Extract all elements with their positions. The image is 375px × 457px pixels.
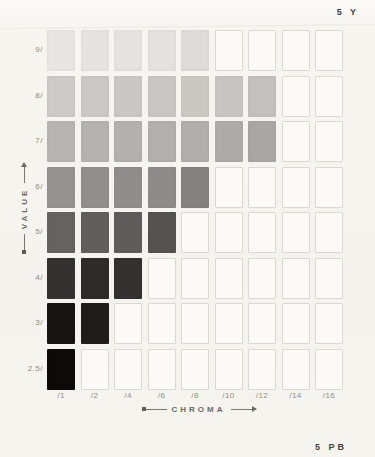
empty-cell bbox=[282, 76, 310, 117]
chroma-column-label: /6 bbox=[148, 391, 176, 403]
color-chip bbox=[114, 258, 142, 299]
chroma-axis-line bbox=[146, 409, 167, 410]
next-hue-label: 5 PB bbox=[315, 442, 347, 452]
empty-cell bbox=[282, 258, 310, 299]
empty-cell bbox=[248, 212, 276, 253]
chroma-column-label: /16 bbox=[315, 391, 343, 403]
color-chip bbox=[148, 76, 176, 117]
value-row-label: 7/ bbox=[0, 136, 43, 145]
empty-cell bbox=[248, 30, 276, 71]
value-axis-line bbox=[24, 234, 25, 250]
empty-cell bbox=[315, 167, 343, 208]
chroma-axis: CHROMA bbox=[151, 404, 247, 414]
value-axis-arrow-icon bbox=[21, 162, 27, 167]
empty-cell bbox=[81, 349, 109, 390]
chroma-column-labels: /1/2/4/6/8/10/12/14/16 bbox=[47, 391, 343, 403]
value-row-label: 8/ bbox=[0, 91, 43, 100]
empty-cell bbox=[315, 121, 343, 162]
empty-cell bbox=[148, 258, 176, 299]
empty-cell bbox=[248, 167, 276, 208]
empty-cell bbox=[315, 30, 343, 71]
value-axis-end-square bbox=[22, 250, 26, 254]
empty-cell bbox=[114, 349, 142, 390]
color-chip bbox=[114, 121, 142, 162]
color-chip bbox=[47, 212, 75, 253]
color-chip bbox=[148, 121, 176, 162]
empty-cell bbox=[248, 303, 276, 344]
empty-cell bbox=[148, 349, 176, 390]
color-chip bbox=[248, 121, 276, 162]
color-chip bbox=[47, 258, 75, 299]
empty-cell bbox=[215, 303, 243, 344]
color-chip bbox=[47, 76, 75, 117]
empty-cell bbox=[315, 349, 343, 390]
empty-cell bbox=[215, 349, 243, 390]
color-chip bbox=[181, 167, 209, 208]
chroma-column-label: /2 bbox=[81, 391, 109, 403]
empty-cell bbox=[248, 258, 276, 299]
color-chip bbox=[81, 258, 109, 299]
empty-cell bbox=[315, 212, 343, 253]
empty-cell bbox=[181, 258, 209, 299]
color-chip bbox=[47, 167, 75, 208]
color-chip bbox=[47, 121, 75, 162]
color-chip bbox=[181, 30, 209, 71]
color-chip bbox=[181, 121, 209, 162]
chroma-column-label: /12 bbox=[248, 391, 276, 403]
chroma-column-label: /8 bbox=[181, 391, 209, 403]
color-chip bbox=[215, 121, 243, 162]
color-chip bbox=[181, 76, 209, 117]
color-chip bbox=[114, 30, 142, 71]
color-chip bbox=[148, 30, 176, 71]
color-chip bbox=[47, 349, 75, 390]
chroma-axis-line bbox=[231, 409, 252, 410]
color-chip bbox=[81, 167, 109, 208]
chroma-axis-label: CHROMA bbox=[167, 405, 231, 414]
color-chip bbox=[248, 76, 276, 117]
value-row-label: 3/ bbox=[0, 318, 43, 327]
empty-cell bbox=[315, 303, 343, 344]
empty-cell bbox=[315, 76, 343, 117]
empty-cell bbox=[148, 303, 176, 344]
empty-cell bbox=[181, 212, 209, 253]
color-chip bbox=[81, 212, 109, 253]
value-axis-line bbox=[24, 167, 25, 183]
chroma-axis-arrow-icon bbox=[252, 406, 257, 412]
empty-cell bbox=[114, 303, 142, 344]
value-row-label: 5/ bbox=[0, 227, 43, 236]
empty-cell bbox=[215, 30, 243, 71]
chroma-column-label: /1 bbox=[47, 391, 75, 403]
color-chip bbox=[81, 303, 109, 344]
empty-cell bbox=[215, 258, 243, 299]
value-row-label: 9/ bbox=[0, 45, 43, 54]
chroma-column-label: /4 bbox=[114, 391, 142, 403]
value-row-label: 4/ bbox=[0, 273, 43, 282]
color-chip bbox=[81, 76, 109, 117]
value-axis: VALUE bbox=[19, 156, 29, 260]
empty-cell bbox=[282, 30, 310, 71]
empty-cell bbox=[181, 349, 209, 390]
empty-cell bbox=[282, 167, 310, 208]
chroma-column-label: /10 bbox=[215, 391, 243, 403]
value-row-label: 2.5/ bbox=[0, 364, 43, 373]
chroma-column-label: /14 bbox=[282, 391, 310, 403]
empty-cell bbox=[181, 303, 209, 344]
munsell-chart-page: 5 Y VALUE 9/8/7/6/5/4/3/2.5/ /1/2/4/6/8/… bbox=[0, 0, 375, 457]
color-chip bbox=[114, 167, 142, 208]
empty-cell bbox=[315, 258, 343, 299]
color-chip bbox=[215, 76, 243, 117]
chip-grid bbox=[47, 30, 343, 390]
color-chip bbox=[114, 76, 142, 117]
empty-cell bbox=[215, 212, 243, 253]
color-chip bbox=[47, 303, 75, 344]
empty-cell bbox=[248, 349, 276, 390]
color-chip bbox=[148, 212, 176, 253]
color-chip bbox=[81, 30, 109, 71]
empty-cell bbox=[282, 349, 310, 390]
color-chip bbox=[47, 30, 75, 71]
color-chip bbox=[148, 167, 176, 208]
empty-cell bbox=[215, 167, 243, 208]
empty-cell bbox=[282, 121, 310, 162]
empty-cell bbox=[282, 212, 310, 253]
color-chip bbox=[114, 212, 142, 253]
